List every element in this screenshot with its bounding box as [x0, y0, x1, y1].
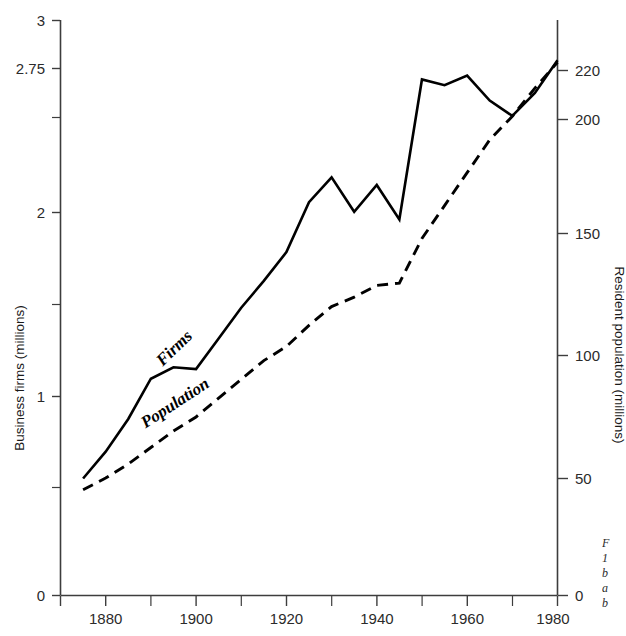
- left-tick-label-1: 1: [37, 388, 45, 405]
- y2-axis-title: Resident population (millions): [612, 266, 626, 443]
- right-tick-label-150: 150: [575, 225, 600, 242]
- x-tick-label-1960: 1960: [451, 610, 484, 627]
- x-tick-label-1920: 1920: [270, 610, 303, 627]
- caption-line-4: a: [602, 581, 626, 596]
- business-firms-population-chart: 3 2.75 2 1 0 220 200 150 100 50 0: [0, 0, 626, 636]
- left-tick-label-0: 0: [37, 587, 45, 604]
- right-tick-label-50: 50: [575, 470, 592, 487]
- right-tick-label-220: 220: [575, 62, 600, 79]
- x-axis-ticks: 1880 1900 1920 1940 1960 1980: [61, 596, 570, 627]
- left-tick-label-2: 2: [37, 204, 45, 221]
- left-tick-label-3: 3: [37, 12, 45, 29]
- chart-canvas: 3 2.75 2 1 0 220 200 150 100 50 0: [0, 0, 626, 636]
- caption-line-1: F: [602, 536, 626, 551]
- right-axis-ticks: 220 200 150 100 50 0: [558, 62, 600, 604]
- axes-group: [61, 20, 558, 596]
- x-tick-label-1880: 1880: [89, 610, 122, 627]
- x-tick-label-1900: 1900: [179, 610, 212, 627]
- right-tick-label-200: 200: [575, 111, 600, 128]
- left-tick-label-2-75: 2.75: [16, 60, 45, 77]
- series-label-firms: Firms: [152, 326, 197, 370]
- caption-fragment: F 1 b a b: [602, 536, 626, 611]
- x-tick-label-1940: 1940: [360, 610, 393, 627]
- right-tick-label-100: 100: [575, 347, 600, 364]
- caption-line-2: 1: [602, 551, 626, 566]
- y-axis-title: Business firms (millions): [12, 305, 27, 451]
- x-tick-label-1980: 1980: [536, 610, 569, 627]
- caption-line-5: b: [602, 596, 626, 611]
- caption-line-3: b: [602, 566, 626, 581]
- right-tick-label-0: 0: [575, 587, 583, 604]
